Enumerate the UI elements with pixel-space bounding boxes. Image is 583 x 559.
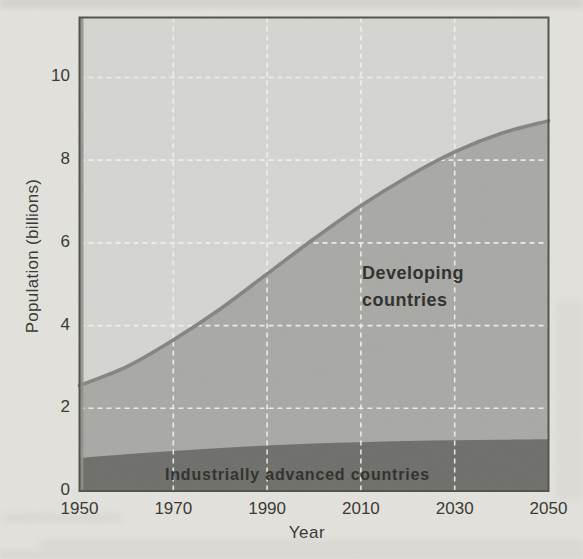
developing-countries-label-line1: Developing — [362, 260, 464, 287]
x-axis-title: Year — [257, 523, 357, 543]
x-tick-label-2050: 2050 — [519, 499, 579, 519]
y-tick-label-10: 10 — [36, 66, 70, 86]
y-tick-label-2: 2 — [36, 397, 70, 417]
scanned-textbook-page: Population (billions) Year 0246810 19501… — [0, 0, 583, 559]
y-tick-label-6: 6 — [36, 232, 70, 252]
x-tick-label-1950: 1950 — [50, 499, 110, 519]
advanced-countries-label: Industrially advanced countries — [165, 466, 430, 484]
developing-countries-label: Developing countries — [362, 260, 464, 314]
x-tick-label-1990: 1990 — [237, 499, 297, 519]
x-tick-label-2010: 2010 — [331, 499, 391, 519]
y-tick-label-8: 8 — [36, 149, 70, 169]
x-tick-label-2030: 2030 — [425, 499, 485, 519]
y-tick-label-0: 0 — [36, 480, 70, 500]
y-tick-label-4: 4 — [36, 315, 70, 335]
developing-countries-label-line2: countries — [362, 287, 464, 314]
x-tick-label-1970: 1970 — [143, 499, 203, 519]
